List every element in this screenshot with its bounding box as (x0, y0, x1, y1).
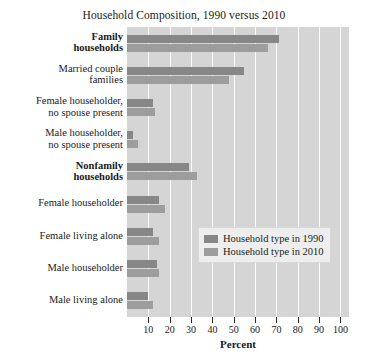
category-label-line: Female householder, (0, 95, 123, 107)
chart-legend: Household type in 1990Household type in … (198, 227, 331, 263)
category-label-line: Female householder (0, 197, 123, 209)
category-label-line: no spouse present (0, 139, 123, 151)
bar (127, 163, 189, 171)
axis-tick-label: 100 (333, 324, 348, 335)
category-label-line: households (0, 171, 123, 183)
bar-group (127, 124, 349, 156)
chart-figure: Household Composition, 1990 versus 2010 … (0, 0, 368, 356)
category-label-line: Female living alone (0, 230, 123, 242)
bar (127, 269, 159, 277)
bar (127, 292, 148, 300)
bar (127, 228, 153, 236)
category-label-line: Nonfamily (0, 160, 123, 172)
category-label: Female householder (0, 197, 123, 209)
bar (127, 301, 153, 309)
axis-tick (170, 317, 171, 323)
legend-swatch (204, 235, 218, 243)
category-label: Married couplefamilies (0, 63, 123, 86)
bar (127, 172, 197, 180)
category-label-line: no spouse present (0, 107, 123, 119)
legend-label: Household type in 1990 (223, 233, 324, 244)
category-label: Male householder,no spouse present (0, 127, 123, 150)
axis-tick-label: 50 (229, 324, 239, 335)
bar (127, 108, 155, 116)
category-label-line: households (0, 42, 123, 54)
axis-tick (319, 317, 320, 323)
legend-item: Household type in 2010 (204, 245, 324, 258)
axis-tick-label: 30 (186, 324, 196, 335)
axis-tick (340, 317, 341, 323)
axis-tick-label: 80 (293, 324, 303, 335)
legend-swatch (204, 248, 218, 256)
bar (127, 237, 159, 245)
x-axis-title: Percent (127, 338, 349, 350)
bar (127, 205, 165, 213)
category-label-line: Male householder (0, 262, 123, 274)
chart-title: Household Composition, 1990 versus 2010 (0, 9, 368, 21)
bar (127, 67, 244, 75)
bar-group (127, 91, 349, 123)
bar (127, 131, 133, 139)
x-axis-tick-labels: 102030405060708090100 (127, 324, 349, 338)
category-label-line: Married couple (0, 63, 123, 75)
category-label-line: Family (0, 31, 123, 43)
category-label: Male householder (0, 262, 123, 274)
axis-tick (298, 317, 299, 323)
bar (127, 99, 153, 107)
axis-tick-label: 10 (143, 324, 153, 335)
axis-tick (191, 317, 192, 323)
category-label-line: families (0, 74, 123, 86)
plot-area (127, 27, 349, 317)
category-label: Female householder,no spouse present (0, 95, 123, 118)
axis-tick (212, 317, 213, 323)
category-labels: FamilyhouseholdsMarried couplefamiliesFe… (0, 27, 123, 317)
category-label-line: Male householder, (0, 127, 123, 139)
category-label-line: Male living alone (0, 294, 123, 306)
legend-item: Household type in 1990 (204, 232, 324, 245)
axis-tick-label: 40 (207, 324, 217, 335)
category-label: Nonfamilyhouseholds (0, 160, 123, 183)
bar-group (127, 59, 349, 91)
bar-group (127, 285, 349, 317)
bar (127, 260, 157, 268)
bar (127, 35, 279, 43)
axis-tick (276, 317, 277, 323)
bar (127, 44, 268, 52)
bar (127, 76, 229, 84)
category-label: Female living alone (0, 230, 123, 242)
axis-tick-label: 20 (165, 324, 175, 335)
bars-layer (127, 27, 349, 317)
bar-group (127, 188, 349, 220)
bar (127, 196, 159, 204)
x-axis-ticks (127, 317, 349, 324)
axis-tick (148, 317, 149, 323)
category-label: Male living alone (0, 294, 123, 306)
axis-tick-label: 60 (250, 324, 260, 335)
bar-group (127, 27, 349, 59)
axis-tick (255, 317, 256, 323)
category-label: Familyhouseholds (0, 31, 123, 54)
axis-tick-label: 90 (314, 324, 324, 335)
bar (127, 140, 138, 148)
axis-tick (234, 317, 235, 323)
bar-group (127, 156, 349, 188)
legend-label: Household type in 2010 (223, 246, 324, 257)
axis-tick-label: 70 (271, 324, 281, 335)
